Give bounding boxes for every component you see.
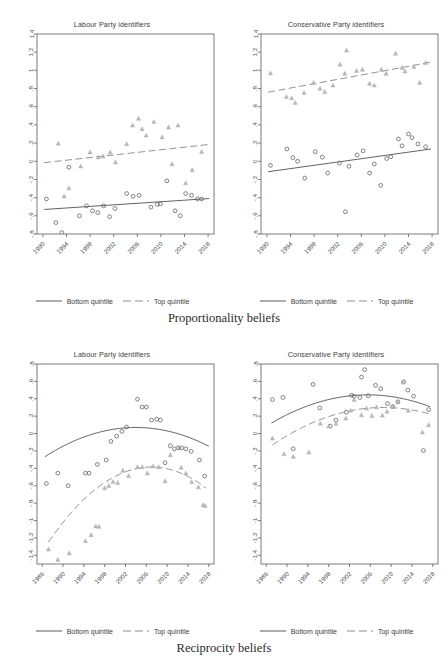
block-caption-proportionality: Proportionality beliefs [0, 311, 448, 326]
svg-text:1998: 1998 [317, 570, 332, 585]
svg-text:.2: .2 [28, 413, 35, 419]
legend-entry-bottom-quintile: Bottom quintile [259, 298, 337, 305]
svg-text:-.2: -.2 [252, 447, 259, 455]
svg-text:1990: 1990 [31, 240, 46, 255]
legend-label-bottom: Bottom quintile [67, 298, 113, 305]
svg-text:2002: 2002 [326, 240, 341, 255]
plot-area-proportionality-labour: -.8-.6-.4-.20.2.4.6.811.21.4199019941998… [0, 28, 224, 280]
svg-text:2014: 2014 [176, 570, 191, 585]
legend-label-bottom: Bottom quintile [67, 628, 113, 635]
legend-solid-line-icon [259, 298, 287, 304]
svg-text:1994: 1994 [55, 240, 70, 255]
legend-solid-line-icon [35, 298, 63, 304]
svg-text:1986: 1986 [31, 570, 46, 585]
svg-text:-.2: -.2 [252, 175, 259, 183]
svg-text:.8: .8 [28, 361, 35, 367]
svg-text:0: 0 [28, 159, 35, 163]
legend-label-top: Top quintile [154, 298, 189, 305]
svg-text:-.4: -.4 [28, 464, 35, 472]
scatter-plot-svg: -.8-.6-.4-.20.2.4.6.811.21.4199019941998… [224, 28, 448, 280]
legend-entry-top-quintile: Top quintile [122, 628, 189, 635]
svg-text:.4: .4 [252, 396, 259, 402]
svg-text:.8: .8 [252, 85, 259, 91]
svg-text:2002: 2002 [338, 570, 353, 585]
svg-text:1: 1 [28, 68, 35, 72]
svg-text:2006: 2006 [135, 570, 150, 585]
svg-text:2006: 2006 [350, 240, 365, 255]
svg-text:.6: .6 [28, 378, 35, 384]
svg-text:1998: 1998 [93, 570, 108, 585]
legend-dashed-line-icon [122, 298, 150, 304]
svg-text:2002: 2002 [114, 570, 129, 585]
svg-text:.4: .4 [28, 396, 35, 402]
chart-block-proportionality: Labour Party identifiers -.8-.6-.4-.20.2… [0, 0, 448, 330]
svg-text:1990: 1990 [51, 570, 66, 585]
svg-text:-.8: -.8 [252, 499, 259, 507]
legend-solid-line-icon [259, 628, 287, 634]
svg-text:-1.4: -1.4 [28, 549, 35, 560]
legend-entry-top-quintile: Top quintile [346, 298, 413, 305]
legend-label-top: Top quintile [154, 628, 189, 635]
legend-label-bottom: Bottom quintile [291, 628, 337, 635]
svg-text:2006: 2006 [126, 240, 141, 255]
svg-text:1998: 1998 [79, 240, 94, 255]
svg-text:1990: 1990 [255, 240, 270, 255]
svg-text:.6: .6 [252, 104, 259, 110]
svg-text:2010: 2010 [373, 240, 388, 255]
svg-text:-1.2: -1.2 [252, 532, 259, 543]
legend-proportionality-conservative: Bottom quintile Top quintile [224, 293, 448, 309]
svg-text:2006: 2006 [359, 570, 374, 585]
panel-reciprocity-labour: Labour Party identifiers -1.4-1.2-1-.8-.… [0, 330, 224, 630]
legend-entry-bottom-quintile: Bottom quintile [259, 628, 337, 635]
svg-text:2018: 2018 [421, 240, 436, 255]
plot-area-reciprocity-labour: -1.4-1.2-1-.8-.6-.4-.20.2.4.6.8198619901… [0, 358, 224, 610]
chart-block-reciprocity: Labour Party identifiers -1.4-1.2-1-.8-.… [0, 330, 448, 662]
svg-text:-1: -1 [28, 517, 35, 523]
svg-text:-.4: -.4 [252, 193, 259, 201]
svg-text:1.4: 1.4 [28, 29, 35, 38]
svg-text:.2: .2 [28, 140, 35, 146]
legend-solid-line-icon [35, 628, 63, 634]
svg-text:-.2: -.2 [28, 447, 35, 455]
legend-reciprocity-conservative: Bottom quintile Top quintile [224, 623, 448, 639]
scatter-plot-svg: -1.4-1.2-1-.8-.6-.4-.20.2.4.6.8198619901… [0, 358, 224, 610]
svg-text:1994: 1994 [279, 240, 294, 255]
panel-reciprocity-conservative: Conservative Party identifiers -1.4-1.2-… [224, 330, 448, 630]
svg-text:-.6: -.6 [252, 212, 259, 220]
svg-text:-.6: -.6 [252, 482, 259, 490]
scatter-plot-svg: -1.4-1.2-1-.8-.6-.4-.20.2.4.6.8198619901… [224, 358, 448, 610]
svg-text:.8: .8 [28, 85, 35, 91]
svg-text:2014: 2014 [400, 570, 415, 585]
figure-root: Labour Party identifiers -.8-.6-.4-.20.2… [0, 0, 448, 662]
svg-text:.4: .4 [28, 122, 35, 128]
svg-text:2002: 2002 [102, 240, 117, 255]
svg-text:2014: 2014 [397, 240, 412, 255]
svg-text:1.4: 1.4 [252, 29, 259, 38]
svg-text:.4: .4 [252, 122, 259, 128]
svg-text:2014: 2014 [173, 240, 188, 255]
svg-text:-.2: -.2 [28, 175, 35, 183]
svg-text:-1.4: -1.4 [252, 549, 259, 560]
legend-proportionality-labour: Bottom quintile Top quintile [0, 293, 224, 309]
legend-reciprocity-labour: Bottom quintile Top quintile [0, 623, 224, 639]
legend-entry-top-quintile: Top quintile [346, 628, 413, 635]
svg-text:2018: 2018 [421, 570, 436, 585]
svg-text:1.2: 1.2 [28, 47, 35, 56]
legend-dashed-line-icon [346, 628, 374, 634]
svg-text:2010: 2010 [149, 240, 164, 255]
svg-text:.8: .8 [252, 361, 259, 367]
svg-text:1: 1 [252, 68, 259, 72]
scatter-plot-svg: -.8-.6-.4-.20.2.4.6.811.21.4199019941998… [0, 28, 224, 280]
svg-text:2010: 2010 [156, 570, 171, 585]
panel-proportionality-labour: Labour Party identifiers -.8-.6-.4-.20.2… [0, 0, 224, 300]
svg-text:2010: 2010 [380, 570, 395, 585]
svg-text:0: 0 [252, 431, 259, 435]
svg-text:1994: 1994 [296, 570, 311, 585]
svg-text:0: 0 [252, 159, 259, 163]
svg-text:.6: .6 [28, 104, 35, 110]
svg-text:1986: 1986 [255, 570, 270, 585]
svg-text:-.6: -.6 [28, 212, 35, 220]
legend-entry-bottom-quintile: Bottom quintile [35, 628, 113, 635]
svg-text:-.8: -.8 [252, 230, 259, 238]
plot-area-proportionality-conservative: -.8-.6-.4-.20.2.4.6.811.21.4199019941998… [224, 28, 448, 280]
